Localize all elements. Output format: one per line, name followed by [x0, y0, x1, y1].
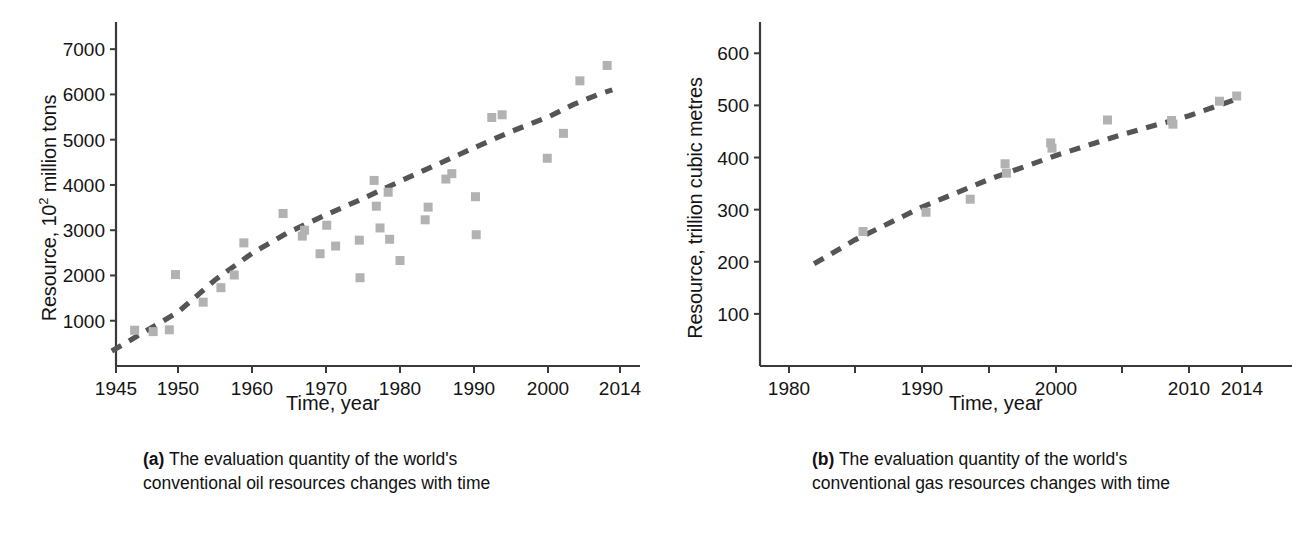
svg-text:200: 200 [717, 252, 749, 273]
panel-a: Resource, 102 million tons 1000200030004… [0, 0, 652, 534]
x-axis-label-a: Time, year [286, 392, 380, 415]
caption-b: (b) The evaluation quantity of the world… [812, 448, 1222, 495]
svg-text:1945: 1945 [95, 378, 137, 399]
x-axis-label-b: Time, year [949, 392, 1043, 415]
svg-text:2000: 2000 [63, 265, 105, 286]
svg-text:1950: 1950 [157, 378, 199, 399]
svg-text:1980: 1980 [379, 378, 421, 399]
svg-text:300: 300 [717, 200, 749, 221]
caption-a-tag: (a) [143, 449, 164, 469]
svg-text:1960: 1960 [231, 378, 273, 399]
scatter-plot-b: 10020030040050060019801990200020102014 [652, 0, 1304, 440]
caption-b-tag: (b) [812, 449, 834, 469]
scatter-plot-a: 1000200030004000500060007000194519501960… [0, 0, 652, 440]
svg-text:1000: 1000 [63, 311, 105, 332]
svg-text:5000: 5000 [63, 130, 105, 151]
caption-a: (a) The evaluation quantity of the world… [143, 448, 543, 495]
svg-text:3000: 3000 [63, 220, 105, 241]
caption-b-text: The evaluation quantity of the world's c… [812, 449, 1170, 493]
svg-text:600: 600 [717, 43, 749, 64]
svg-text:100: 100 [717, 304, 749, 325]
svg-text:2000: 2000 [527, 378, 569, 399]
svg-text:500: 500 [717, 95, 749, 116]
panel-b: Resource, trillion cubic metres 10020030… [652, 0, 1304, 534]
svg-text:1990: 1990 [901, 378, 943, 399]
caption-a-text: The evaluation quantity of the world's c… [143, 449, 490, 493]
svg-text:400: 400 [717, 148, 749, 169]
svg-text:1980: 1980 [768, 378, 810, 399]
svg-text:4000: 4000 [63, 175, 105, 196]
svg-text:7000: 7000 [63, 39, 105, 60]
figure-container: Resource, 102 million tons 1000200030004… [0, 0, 1304, 534]
svg-text:2010: 2010 [1168, 378, 1210, 399]
svg-text:6000: 6000 [63, 84, 105, 105]
svg-text:1990: 1990 [453, 378, 495, 399]
svg-text:2014: 2014 [1221, 378, 1264, 399]
svg-text:2014: 2014 [599, 378, 642, 399]
